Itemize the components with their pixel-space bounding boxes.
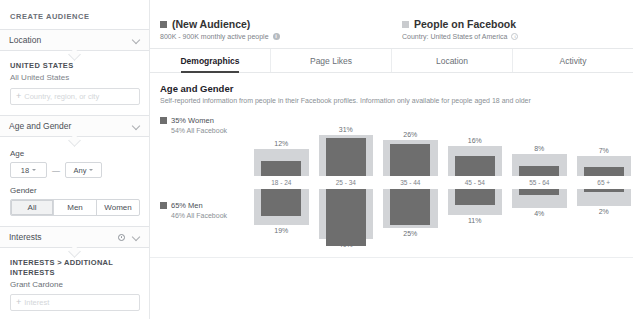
age-max-value: Any — [74, 166, 87, 175]
tab-location[interactable]: Location — [392, 49, 513, 72]
chart-half-men: 25% — [383, 189, 438, 261]
location-body: UNITED STATES All United States + Countr… — [0, 57, 150, 115]
bar-women[interactable] — [254, 149, 309, 176]
value-bar-women — [390, 144, 430, 176]
chevron-down-icon[interactable] — [132, 36, 141, 45]
axis-tick-label: 35 - 44 — [383, 176, 438, 189]
age-gender-section: Age and Gender Self-reported information… — [150, 73, 633, 104]
bar-value-label-men: 19% — [274, 227, 288, 234]
bar-value-label-women: 7% — [599, 147, 609, 154]
age-range-row: 18 — Any — [10, 162, 140, 178]
location-country-title: UNITED STATES — [10, 61, 140, 70]
audience-name: (New Audience) — [172, 18, 250, 30]
chevron-down-icon[interactable] — [132, 233, 141, 242]
bar-women[interactable] — [383, 140, 438, 176]
tab-demographics[interactable]: Demographics — [150, 49, 271, 72]
bar-men[interactable] — [254, 189, 309, 225]
benchmark-subtitle-row: Country: United States of America i — [402, 33, 518, 40]
bar-value-label-men: 25% — [403, 230, 417, 237]
sidebar-title: CREATE AUDIENCE — [0, 12, 150, 29]
chart-half-men: 19% — [254, 189, 309, 261]
age-label: Age — [10, 149, 140, 158]
bar-value-label-women: 31% — [339, 126, 353, 133]
chart-columns: 12%18 - 2419%31%25 - 3440%26%35 - 4425%1… — [254, 112, 631, 261]
location-country-subtitle: All United States — [10, 73, 140, 82]
section-notch — [0, 51, 150, 57]
gender-option-women[interactable]: Women — [97, 200, 139, 215]
info-icon[interactable]: i — [511, 33, 518, 40]
chart-column: 12%18 - 2419% — [254, 112, 309, 261]
tab-activity[interactable]: Activity — [513, 49, 633, 72]
chart-half-women: 7% — [577, 112, 632, 176]
main-panel: (New Audience) 800K - 900K monthly activ… — [150, 0, 633, 319]
bar-men[interactable] — [512, 189, 567, 208]
bar-men[interactable] — [319, 189, 374, 239]
gender-label: Gender — [10, 186, 140, 195]
audience-summary: (New Audience) 800K - 900K monthly activ… — [160, 18, 402, 40]
interest-input[interactable]: + Interest — [10, 294, 140, 311]
axis-tick-label: 45 - 54 — [448, 176, 503, 189]
create-audience-sidebar: CREATE AUDIENCE Location UNITED STATES A… — [0, 0, 150, 319]
legend-color-swatch — [160, 202, 167, 209]
value-bar-men — [326, 189, 366, 246]
interests-breadcrumb: INTERESTS > ADDITIONAL INTERESTS — [10, 258, 140, 277]
section-description: Self-reported information from people in… — [160, 97, 623, 104]
bar-value-label-men: 2% — [599, 208, 609, 215]
section-notch — [0, 248, 150, 254]
chart-half-women: 31% — [319, 112, 374, 176]
age-gender-chart: 35% Women 54% All Facebook 65% Men 46% A… — [150, 112, 633, 261]
caret-down-icon — [32, 169, 36, 171]
section-notch — [0, 137, 150, 143]
value-bar-men — [519, 189, 559, 195]
benchmark-color-swatch — [402, 21, 409, 28]
bar-women[interactable] — [448, 146, 503, 176]
axis-tick-label: 55 - 64 — [512, 176, 567, 189]
axis-tick-label: 18 - 24 — [254, 176, 309, 189]
bar-value-label-men: 11% — [468, 217, 482, 224]
age-min-select[interactable]: 18 — [10, 162, 47, 178]
value-bar-men — [455, 189, 495, 205]
gender-option-all[interactable]: All — [11, 200, 54, 215]
interests-body: INTERESTS > ADDITIONAL INTERESTS Grant C… — [0, 254, 150, 319]
bar-men[interactable] — [383, 189, 438, 228]
age-max-select[interactable]: Any — [65, 162, 102, 178]
caret-down-icon — [89, 169, 93, 171]
section-label-location: Location — [9, 35, 41, 45]
age-range-dash: — — [52, 166, 60, 175]
value-bar-women — [584, 167, 624, 176]
audience-name-row: (New Audience) — [160, 18, 402, 30]
legend-men-label: 65% Men — [171, 201, 203, 210]
benchmark-summary: People on Facebook Country: United State… — [402, 18, 518, 40]
benchmark-name-row: People on Facebook — [402, 18, 518, 30]
audience-color-swatch — [160, 21, 167, 28]
bar-men[interactable] — [448, 189, 503, 215]
chart-column: 16%45 - 5411% — [448, 112, 503, 261]
bar-men[interactable] — [577, 189, 632, 206]
tab-page-likes[interactable]: Page Likes — [271, 49, 392, 72]
bar-women[interactable] — [577, 156, 632, 176]
location-input-placeholder: Country, region, or city — [24, 92, 99, 101]
chart-column: 7%65 +2% — [577, 112, 632, 261]
location-input[interactable]: + Country, region, or city — [10, 88, 140, 105]
gender-option-men[interactable]: Men — [54, 200, 97, 215]
gear-icon[interactable] — [118, 234, 125, 241]
info-icon[interactable]: i — [273, 33, 280, 40]
interest-input-placeholder: Interest — [24, 298, 49, 307]
legend-color-swatch — [160, 117, 167, 124]
plus-icon: + — [16, 92, 21, 101]
value-bar-women — [519, 166, 559, 176]
bar-women[interactable] — [512, 154, 567, 176]
audience-subtitle-row: 800K - 900K monthly active people i — [160, 33, 402, 40]
interest-tag[interactable]: Grant Cardone — [10, 280, 140, 289]
benchmark-name: People on Facebook — [414, 18, 516, 30]
bar-value-label-women: 8% — [534, 145, 544, 152]
axis-tick-label: 25 - 34 — [319, 176, 374, 189]
legend-women-benchmark: 54% All Facebook — [171, 127, 227, 134]
legend-women-row: 35% Women — [160, 116, 227, 125]
chevron-down-icon[interactable] — [132, 122, 141, 131]
value-bar-women — [455, 156, 495, 176]
audience-header: (New Audience) 800K - 900K monthly activ… — [150, 0, 633, 48]
chart-column: 31%25 - 3440% — [319, 112, 374, 261]
bar-women[interactable] — [319, 135, 374, 176]
value-bar-men — [390, 189, 430, 225]
